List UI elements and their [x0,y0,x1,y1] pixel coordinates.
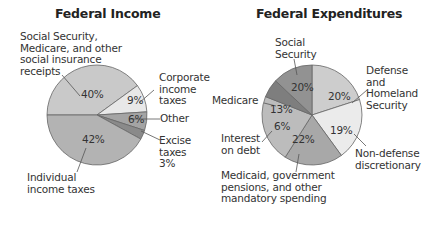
income-pct-corporate: 9% [127,94,143,106]
income-label-excise: Excise taxes 3% [159,135,191,170]
exp-label-social-security: Social Security [275,37,317,60]
income-label-other: Other [160,113,189,125]
exp-label-nondefense: Non-defense discretionary [355,148,421,171]
income-pct-other: 6% [128,113,144,125]
income-pct-social: 40% [81,88,104,100]
exp-label-defense: Defense and Homeland Security [366,65,418,111]
exp-label-medicaid: Medicaid, government pensions, and other… [221,170,335,205]
exp-pct-medicare: 13% [270,103,293,115]
exp-label-medicare: Medicare [212,95,258,107]
exp-pct-defense: 20% [328,90,351,102]
income-label-social-insurance: Social Security, Medicare, and other soc… [20,31,122,77]
expenditures-pie [262,65,362,165]
income-label-corporate: Corporate income taxes [159,72,210,107]
exp-pct-interest: 6% [274,120,290,132]
income-pct-individual: 42% [82,133,105,145]
income-label-individual: Individual income taxes [27,172,95,195]
exp-pct-nondefense: 19% [330,124,353,136]
exp-pct-social: 20% [291,81,314,93]
exp-pct-medicaid: 22% [292,133,315,145]
exp-label-interest: Interest on debt [221,133,260,156]
